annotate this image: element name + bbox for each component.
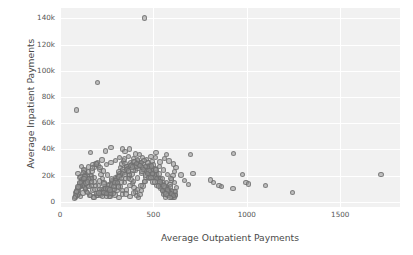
data-point [108,145,113,150]
data-point [219,184,224,189]
data-point [103,148,108,153]
x-tick-label: 1000 [227,211,267,218]
data-point [95,80,100,85]
x-tick-label: 1500 [320,211,360,218]
gridline-horizontal [60,97,400,98]
data-point [135,175,140,180]
scatter-chart-figure: 020k40k60k80k100k120k140k 050010001500 A… [0,0,413,255]
gridline-horizontal [60,202,400,203]
data-point [378,172,383,177]
data-point [231,151,236,156]
gridline-vertical [247,8,248,207]
data-point [88,150,93,155]
data-point [290,190,295,195]
data-point [72,195,77,200]
data-point [178,172,183,177]
data-point [186,182,191,187]
data-point [127,146,132,151]
data-point [166,158,171,163]
gridline-vertical [340,8,341,207]
data-point [104,162,109,167]
gridline-horizontal [60,45,400,46]
gridline-horizontal [60,18,400,19]
gridline-horizontal [60,71,400,72]
data-point [230,186,235,191]
y-axis-title: Average Inpatient Payments [25,0,36,214]
data-point [152,179,157,184]
x-tick-label: 0 [40,211,80,218]
data-point [142,15,147,20]
data-point [263,183,268,188]
x-axis-title: Average Outpatient Payments [60,232,400,243]
data-point [74,107,79,112]
gridline-vertical [60,8,61,207]
data-point [190,171,195,176]
data-point [246,181,251,186]
data-point [122,156,127,161]
gridline-horizontal [60,123,400,124]
x-tick-label: 500 [133,211,173,218]
data-point [148,154,153,159]
plot-area [60,8,400,207]
data-point [160,188,165,193]
data-point [188,152,193,157]
